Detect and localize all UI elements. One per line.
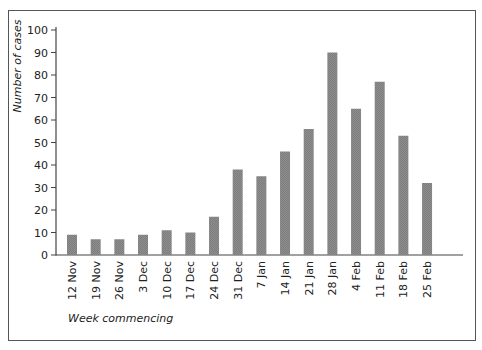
y-tick-label: 50	[34, 137, 48, 150]
x-tick-label: 4 Feb	[350, 261, 363, 291]
y-axis-label: Number of cases	[11, 19, 24, 112]
x-axis: 12 Nov19 Nov26 Nov3 Dec10 Dec17 Dec24 De…	[56, 255, 463, 300]
y-tick-label: 20	[34, 204, 48, 217]
x-tick-label: 11 Feb	[374, 261, 387, 298]
bar	[162, 230, 172, 255]
y-tick-label: 80	[34, 69, 48, 82]
x-tick-label: 12 Nov	[66, 261, 79, 300]
y-tick-label: 70	[34, 92, 48, 105]
bar	[114, 239, 124, 255]
y-tick-label: 60	[34, 114, 48, 127]
x-tick-label: 7 Jan	[255, 261, 268, 288]
y-axis: 0102030405060708090100	[27, 24, 56, 262]
bar	[233, 170, 243, 256]
y-tick-label: 100	[27, 24, 48, 37]
x-tick-label: 31 Dec	[232, 261, 245, 300]
bar	[304, 129, 314, 255]
x-tick-label: 28 Jan	[326, 261, 339, 295]
x-tick-label: 17 Dec	[184, 261, 197, 300]
bar	[375, 82, 385, 255]
bar	[209, 217, 219, 255]
x-tick-label: 19 Nov	[90, 261, 103, 300]
bar	[91, 239, 101, 255]
x-tick-label: 24 Dec	[208, 261, 221, 300]
bar	[327, 53, 337, 256]
y-tick-label: 30	[34, 182, 48, 195]
bar	[280, 152, 290, 256]
y-tick-label: 10	[34, 227, 48, 240]
x-tick-label: 18 Feb	[397, 261, 410, 298]
x-tick-label: 21 Jan	[303, 261, 316, 295]
x-tick-label: 3 Dec	[137, 261, 150, 293]
y-tick-label: 40	[34, 159, 48, 172]
bar	[138, 235, 148, 255]
bar	[398, 136, 408, 255]
bar	[422, 183, 432, 255]
bar	[67, 235, 77, 255]
x-axis-label: Week commencing	[68, 312, 173, 325]
y-tick-label: 90	[34, 47, 48, 60]
bar-chart: 0102030405060708090100 12 Nov19 Nov26 No…	[0, 0, 482, 350]
bar	[351, 109, 361, 255]
bar	[256, 176, 266, 255]
bars	[67, 53, 432, 256]
x-tick-label: 10 Dec	[161, 261, 174, 300]
x-tick-label: 25 Feb	[421, 261, 434, 298]
bar	[185, 233, 195, 256]
x-tick-label: 14 Jan	[279, 261, 292, 295]
x-tick-label: 26 Nov	[113, 261, 126, 300]
y-tick-label: 0	[41, 249, 48, 262]
